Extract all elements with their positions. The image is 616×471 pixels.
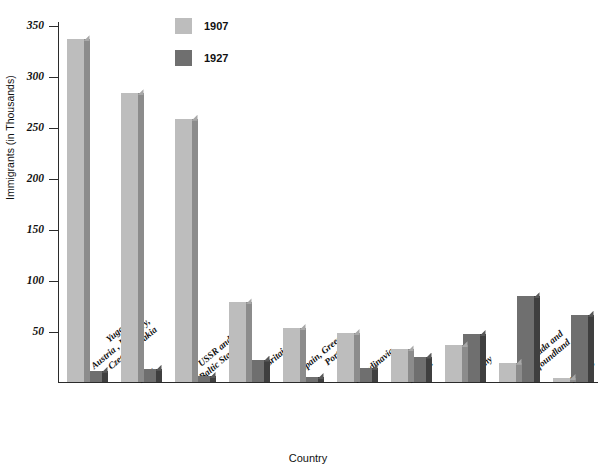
- y-axis-tick-label: 200: [27, 172, 44, 184]
- y-axis-title: Immigrants (in Thousands): [4, 75, 16, 200]
- bar-1907-8: [499, 363, 516, 382]
- bar-side: [516, 363, 522, 382]
- y-axis-tick: 100: [49, 281, 59, 282]
- bar-face: [571, 315, 588, 382]
- bar-side: [192, 119, 198, 382]
- bar-cap: [426, 353, 432, 359]
- y-axis-tick-label: 50: [33, 325, 45, 337]
- y-axis-tick: 300: [49, 77, 59, 78]
- y-axis-tick: 200: [49, 179, 59, 180]
- bar-side: [84, 39, 90, 382]
- bar-1907-5: [337, 333, 354, 382]
- bar-side: [408, 349, 414, 382]
- bar-cap: [480, 330, 486, 336]
- bar-side: [372, 368, 378, 382]
- bar-cap: [354, 329, 360, 335]
- chart-legend: 19071927: [175, 18, 265, 82]
- bar-1907-0: [67, 39, 84, 382]
- bar-side: [246, 302, 252, 382]
- bar-face: [229, 302, 246, 382]
- legend-swatch-icon: [175, 50, 192, 66]
- legend-label: 1927: [204, 52, 228, 64]
- bar-face: [175, 119, 192, 382]
- bar-face: [391, 349, 408, 382]
- bar-face: [121, 93, 138, 382]
- legend-item-1927: 1927: [175, 50, 265, 66]
- bar-side: [138, 93, 144, 382]
- bar-1907-2: [175, 119, 192, 382]
- bar-face: [499, 363, 516, 382]
- immigration-bar-chart: Immigrants (in Thousands) 35030025020015…: [0, 0, 616, 471]
- bar-face: [337, 333, 354, 382]
- bar-side: [480, 334, 486, 382]
- bar-side: [426, 357, 432, 383]
- y-axis-tick: 350: [49, 26, 59, 27]
- y-axis-tick: 150: [49, 230, 59, 231]
- bar-side: [264, 360, 270, 382]
- legend-label: 1907: [204, 20, 228, 32]
- legend-item-1907: 1907: [175, 18, 265, 34]
- plot-area: 35030025020015010050Yugoslavia,Austria ,…: [58, 22, 598, 383]
- y-axis-tick-label: 100: [27, 274, 44, 286]
- y-axis-tick-label: 250: [27, 121, 44, 133]
- bar-cap: [84, 35, 90, 41]
- y-axis-tick-label: 350: [27, 19, 44, 31]
- y-axis-tick-label: 150: [27, 223, 44, 235]
- bar-face: [67, 39, 84, 382]
- bar-side: [300, 328, 306, 382]
- bar-side: [354, 333, 360, 382]
- bar-1927-9: [571, 315, 588, 382]
- legend-swatch-icon: [175, 18, 192, 34]
- bar-cap: [534, 292, 540, 298]
- bar-side: [462, 345, 468, 382]
- y-axis-tick: 250: [49, 128, 59, 129]
- bar-cap: [156, 365, 162, 371]
- bar-1907-6: [391, 349, 408, 382]
- bar-1907-1: [121, 93, 138, 382]
- bar-cap: [246, 298, 252, 304]
- bar-face: [445, 345, 462, 382]
- bar-face: [283, 328, 300, 382]
- bar-side: [534, 296, 540, 382]
- bar-cap: [300, 324, 306, 330]
- bar-side: [588, 315, 594, 382]
- bar-1907-9: [553, 378, 570, 382]
- bar-1907-7: [445, 345, 462, 382]
- bar-cap: [588, 311, 594, 317]
- bar-1907-4: [283, 328, 300, 382]
- bar-cap: [408, 345, 414, 351]
- bar-face: [553, 378, 570, 382]
- bar-1907-3: [229, 302, 246, 382]
- y-axis-tick-label: 300: [27, 70, 44, 82]
- y-axis-tick: 50: [49, 332, 59, 333]
- x-axis-title: Country: [0, 452, 616, 464]
